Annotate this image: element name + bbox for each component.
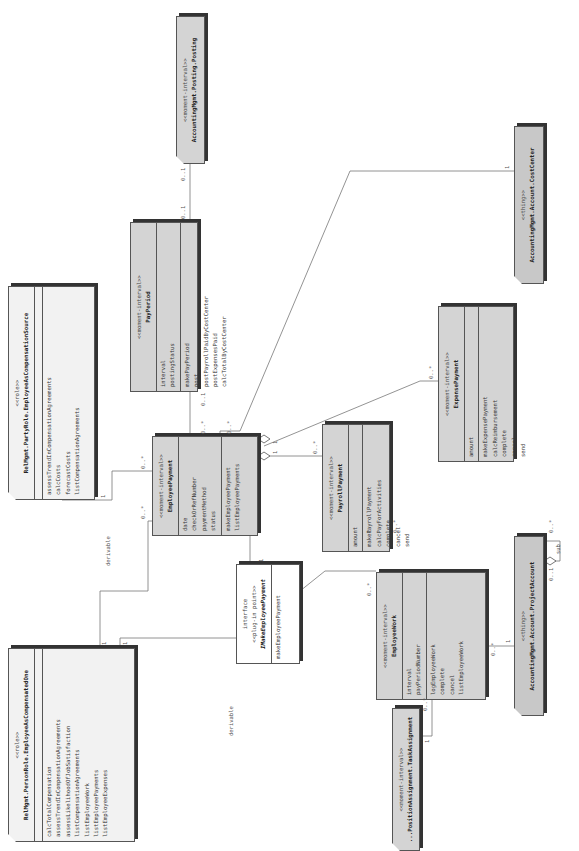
stereotype: <<moment-interval>> <box>135 225 144 389</box>
operation: assessTrendInCompensationAgreements <box>45 291 54 495</box>
class-project-account[interactable]: <<thing>> AccountingMgmt.Account.Project… <box>514 536 544 716</box>
attribute: status <box>209 441 218 531</box>
attributes-section: date checkOrRefNumber paymentMethod stat… <box>178 437 221 535</box>
operations-section: assessTrendInCompensationAgreements calc… <box>42 287 85 499</box>
class-expense-payment[interactable]: <<moment-interval>> ExpensePayment amoun… <box>438 306 514 462</box>
operations-section: makeExpensePayment calcReimbursement com… <box>478 307 530 461</box>
attribute: checkOrRefNumber <box>190 441 199 531</box>
operation: makePayPeriod <box>183 227 192 387</box>
operation: postExpensesPaid <box>211 227 220 387</box>
multiplicity: 0..* <box>366 583 372 596</box>
multiplicity: 1 <box>101 642 107 645</box>
label-sub: sub <box>555 544 561 554</box>
attribute: interval <box>405 577 414 695</box>
class-name: AccountingMgmt.Posting.Posting <box>190 19 199 161</box>
interface-imake-employee-payment[interactable]: interface <<plug-in point>> IMakeEmploye… <box>236 564 300 664</box>
operation: send <box>403 429 412 547</box>
multiplicity: 1 <box>272 451 278 454</box>
stereotype: <<thing>> <box>519 539 528 713</box>
attributes-section <box>34 287 42 499</box>
multiplicity: 1 <box>504 166 510 169</box>
operation: listCompensationAgreements <box>73 291 82 495</box>
operation: listEmployeeWork <box>457 577 466 695</box>
multiplicity: 1 <box>505 640 511 643</box>
operation: calcCosts <box>54 291 63 495</box>
multiplicity: 0..1 <box>180 168 186 181</box>
class-name: ...PositionAssignment.TaskAssignment <box>406 711 415 848</box>
class-name: AccountingMgmt.Account.ProjectAccount <box>528 539 537 713</box>
multiplicity: 1 <box>122 642 128 645</box>
operations-section: makeEmployeePayment listEmployeePayments <box>221 437 245 535</box>
class-employee-payment[interactable]: <<moment-interval>> EmployeePayment date… <box>152 436 258 536</box>
operation: complete <box>500 311 509 457</box>
class-pay-period[interactable]: <<moment-interval>> PayPeriod interval p… <box>130 222 198 392</box>
attributes-section: interval payPeriodNumber <box>402 573 426 699</box>
multiplicity: 0..* <box>548 520 554 533</box>
multiplicity: 0..* <box>490 643 496 656</box>
operation: calcReimbursement <box>491 311 500 457</box>
operations-section: makeEmployeePayment <box>271 565 285 663</box>
operation: listCompensationAgreements <box>73 653 82 837</box>
operations-section: logEmployeeWork complete cancel listEmpl… <box>426 573 469 699</box>
attribute: payPeriodNumber <box>414 577 423 695</box>
operation: listEmployeePayments <box>233 441 242 531</box>
multiplicity: 1 <box>258 559 264 562</box>
operation: calcTotalCompensation <box>45 653 54 837</box>
class-name: ExpensePayment <box>452 309 461 459</box>
class-name: RelMgmt.PersonRole.EmployeeAsCompensated… <box>22 651 31 839</box>
label-derivable: derivable <box>228 706 234 736</box>
stereotype: <<moment-interval>> <box>443 309 452 459</box>
uml-class-diagram: <<role>> RelMgmt.PersonRole.EmployeeAsCo… <box>0 0 579 851</box>
attributes-section: amount <box>348 425 362 551</box>
multiplicity: 0..1 <box>548 568 554 581</box>
multiplicity: 1 <box>366 530 372 533</box>
class-posting[interactable]: <<moment-interval>> AccountingMgmt.Posti… <box>176 16 205 164</box>
operation: listEmployeePayments <box>92 653 101 837</box>
class-name: PayrollPayment <box>336 427 345 549</box>
operation: makeExpensePayment <box>481 311 490 457</box>
attribute: amount <box>467 311 476 457</box>
multiplicity: 0..* <box>428 366 434 379</box>
stereotype: <<plug-in point>> <box>250 567 259 661</box>
class-cost-center[interactable]: <<thing>> AccountingMgmt.Account.CostCen… <box>514 126 544 284</box>
class-name: AccountingMgmt.Account.CostCenter <box>528 129 537 281</box>
interface-keyword: interface <box>241 567 250 661</box>
class-employee-work[interactable]: <<moment-interval>> EmployeeWork interva… <box>376 572 486 700</box>
class-name: PayPeriod <box>144 225 153 389</box>
operations-section: calcTotalCompensation assessTrendInCompe… <box>42 649 113 841</box>
operation: makeEmployeePayment <box>224 441 233 531</box>
operation: assessLikelihoodOfJobSatisfaction <box>64 653 73 837</box>
multiplicity: 1 <box>272 441 278 444</box>
stereotype: <<moment-interval>> <box>157 439 166 533</box>
stereotype: <<moment-interval>> <box>397 711 406 848</box>
operation: complete <box>438 577 447 695</box>
operation: calcTotalByCostCenter <box>220 227 229 387</box>
multiplicity: 0..* <box>312 441 318 454</box>
multiplicity: 0..* <box>200 421 206 434</box>
multiplicity: 0..* <box>392 520 398 533</box>
class-payroll-payment[interactable]: <<moment-interval>> PayrollPayment amoun… <box>322 424 390 552</box>
operation: calcPayForActivities <box>375 429 384 547</box>
class-employee-as-compensation-source[interactable]: <<role>> RelMgmt.PartyRole.EmployeeAsCom… <box>8 286 95 500</box>
stereotype: <<moment-interval>> <box>381 575 390 697</box>
operation: logEmployeeWork <box>429 577 438 695</box>
stereotype: <<role>> <box>13 651 22 839</box>
multiplicity: 0..* <box>140 456 146 469</box>
attributes-section <box>34 649 42 841</box>
class-name: IMakeEmployeePayment <box>259 567 268 661</box>
multiplicity: 1 <box>424 740 430 743</box>
stereotype: <<role>> <box>13 289 22 497</box>
operation: makeEmployeePayment <box>274 569 283 659</box>
class-name: RelMgmt.PartyRole.EmployeeAsCompensation… <box>22 289 31 497</box>
stereotype: <<moment-interval>> <box>327 427 336 549</box>
operation: assessTrendInCompensationAgreements <box>54 653 63 837</box>
class-employee-as-compensated-one[interactable]: <<role>> RelMgmt.PersonRole.EmployeeAsCo… <box>8 648 135 842</box>
operation: send <box>519 311 528 457</box>
class-task-assignment[interactable]: <<moment-interval>> ...PositionAssignmen… <box>392 708 420 851</box>
multiplicity: 0..* <box>140 506 146 519</box>
multiplicity: 0..1 <box>200 393 206 406</box>
stereotype: <<moment-interval>> <box>181 19 190 161</box>
stereotype: <<thing>> <box>519 129 528 281</box>
attribute: amount <box>351 429 360 547</box>
multiplicity: 0..* <box>422 698 428 711</box>
